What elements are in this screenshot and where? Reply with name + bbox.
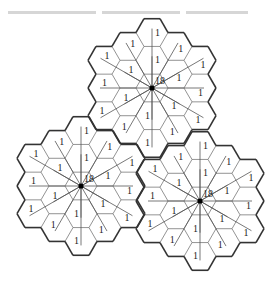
cell-edge xyxy=(208,229,216,243)
cell-weight-label: 1 xyxy=(122,121,127,132)
cell-edge xyxy=(89,144,97,158)
cluster-outline-edge xyxy=(208,60,216,74)
cell-weight-label: 1 xyxy=(170,126,175,137)
cell-edge xyxy=(113,186,121,200)
cell-edge xyxy=(113,172,121,186)
cell-weight-label: 1 xyxy=(193,250,198,261)
cluster-outline-edge xyxy=(137,144,145,158)
cluster-outline-edge xyxy=(184,132,192,146)
cell-weight-label: 1 xyxy=(145,137,150,148)
cluster-outline-edge xyxy=(89,241,97,255)
cell-weight-label: 1 xyxy=(129,64,134,75)
cell-weight-label: 1 xyxy=(148,218,153,229)
cluster-outline-edge xyxy=(17,158,25,172)
cell-weight-label: 1 xyxy=(153,163,158,174)
cell-weight-label: 1 xyxy=(178,43,183,54)
cell-edge xyxy=(136,46,144,60)
cell-edge xyxy=(184,88,192,102)
cell-edge xyxy=(113,214,121,228)
cell-edge xyxy=(208,243,216,257)
cell-edge xyxy=(112,88,120,102)
cell-edge xyxy=(136,33,144,47)
cluster-outline-edge xyxy=(136,173,144,187)
cell-edge xyxy=(160,130,168,144)
cluster-outline-edge xyxy=(256,229,264,243)
cluster-outline-edge xyxy=(208,116,216,130)
cluster-outline-edge xyxy=(136,187,144,201)
cell-weight-label: 1 xyxy=(102,77,107,88)
cell-edge xyxy=(232,229,240,243)
cluster-center-node xyxy=(78,183,83,188)
cell-weight-label: 1 xyxy=(246,200,251,211)
cluster-outline-edge xyxy=(65,117,73,131)
cell-edge xyxy=(184,243,192,257)
cell-edge xyxy=(65,144,73,158)
cell-weight-label: 1 xyxy=(124,92,129,103)
cell-edge xyxy=(65,131,73,145)
cell-weight-label: 1 xyxy=(51,219,56,230)
cell-weight-label: 1 xyxy=(249,172,254,183)
cell-edge xyxy=(184,116,192,130)
cluster-outline-edge xyxy=(256,215,264,229)
cluster-outline-edge xyxy=(256,201,264,215)
cluster-outline-edge xyxy=(184,33,192,47)
cell-weight-label: 1 xyxy=(127,185,132,196)
cell-edge xyxy=(160,116,168,130)
cell-edge xyxy=(160,33,168,47)
center-total-label: 18 xyxy=(203,188,213,199)
cell-edge xyxy=(65,228,73,242)
cell-edge xyxy=(232,187,240,201)
cluster-outline-edge xyxy=(113,131,121,145)
cluster-outline-edge xyxy=(256,159,264,173)
cluster-outline-edge xyxy=(88,74,96,88)
cell-edge xyxy=(136,130,144,144)
cell-edge xyxy=(184,146,192,160)
cell-edge xyxy=(89,228,97,242)
cluster-outline-edge xyxy=(41,228,49,242)
center-total-label: 18 xyxy=(84,173,94,184)
cluster-outline-edge xyxy=(160,243,168,257)
cell-edge xyxy=(208,146,216,160)
cell-weight-label: 1 xyxy=(226,156,231,167)
cell-weight-label: 1 xyxy=(193,223,198,234)
cluster-outline-edge xyxy=(88,102,96,116)
cluster-outline-edge xyxy=(208,74,216,88)
cluster-outline-edge xyxy=(208,88,216,102)
cell-edge xyxy=(160,229,168,243)
cluster-outline-edge xyxy=(232,243,240,257)
cell-edge xyxy=(160,187,168,201)
cell-edge xyxy=(41,172,49,186)
cell-weight-label: 1 xyxy=(220,213,225,224)
cluster-outline-edge xyxy=(256,173,264,187)
cluster-outline-edge xyxy=(137,172,145,186)
cell-weight-label: 1 xyxy=(177,72,182,83)
cell-weight-label: 1 xyxy=(145,110,150,121)
cell-edge xyxy=(232,159,240,173)
cluster-outline-edge xyxy=(208,132,216,146)
cluster-outline-edge xyxy=(89,117,97,131)
cluster-outline-edge xyxy=(160,143,168,157)
cell-edge xyxy=(89,131,97,145)
cell-weight-label: 1 xyxy=(155,54,160,65)
cell-weight-label: 1 xyxy=(203,167,208,178)
cell-weight-label: 1 xyxy=(29,203,34,214)
cluster-outline-edge xyxy=(137,200,145,214)
cell-edge xyxy=(160,46,168,60)
cell-edge xyxy=(160,159,168,173)
cluster-center-node xyxy=(149,85,154,90)
cell-edge xyxy=(184,159,192,173)
cell-edge xyxy=(113,144,121,158)
cell-edge xyxy=(41,214,49,228)
cluster-outline-edge xyxy=(136,159,144,173)
cell-edge xyxy=(112,46,120,60)
cell-weight-label: 1 xyxy=(172,205,177,216)
cell-weight-label: 1 xyxy=(178,151,183,162)
cell-weight-label: 1 xyxy=(58,162,63,173)
cell-edge xyxy=(208,159,216,173)
cell-labels: 1111111111111111111811111111111111111118… xyxy=(29,27,254,262)
cell-edge xyxy=(65,214,73,228)
cell-weight-label: 1 xyxy=(203,140,208,151)
cell-edge xyxy=(112,116,120,130)
cell-weight-label: 1 xyxy=(74,235,79,246)
cluster-outline-edge xyxy=(113,228,121,242)
